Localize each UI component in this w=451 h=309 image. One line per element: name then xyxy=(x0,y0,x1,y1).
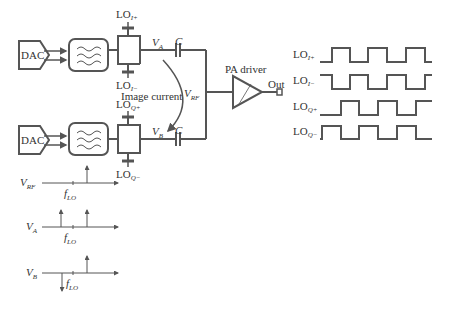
lo-waveforms xyxy=(320,48,432,139)
spectra-axes xyxy=(42,166,118,291)
pa-driver-label: PA driver xyxy=(225,64,266,75)
capacitor-bottom-label: C xyxy=(175,125,182,136)
va-label: VA xyxy=(152,37,163,51)
pa-driver-shape xyxy=(233,76,262,108)
lo-q-minus-label: LOQ− xyxy=(116,169,140,182)
waveform-label-lo-q-plus: LOQ+ xyxy=(293,101,317,114)
spectrum-tick-flo-va: fLO xyxy=(64,232,76,246)
waveform-label-lo-i-plus: LOI+ xyxy=(293,49,315,62)
filter-bottom-shape xyxy=(69,123,108,155)
out-label: Out xyxy=(268,79,285,90)
vrf-label: VRF xyxy=(184,88,199,102)
spectrum-label-vb: VB xyxy=(26,267,37,281)
dac-top-label: DAC xyxy=(21,50,44,61)
dac-bottom-label: DAC xyxy=(21,135,44,146)
iq-upconverter-diagram: DAC DAC LOI+ LOI− LOQ+ LOQ− VA VB C C Im… xyxy=(0,0,451,309)
image-current-label: Image current xyxy=(121,91,182,102)
capacitor-top-label: C xyxy=(175,36,182,47)
spectrum-tick-flo-vb: fLO xyxy=(66,278,78,292)
circuit-drawing xyxy=(0,0,451,309)
waveform-label-lo-q-minus: LOQ− xyxy=(293,126,317,139)
waveform-label-lo-i-minus: LOI− xyxy=(293,75,315,88)
vb-label: VB xyxy=(152,126,163,140)
spectrum-label-vrf: VRF xyxy=(20,177,35,191)
spectrum-label-va: VA xyxy=(26,221,37,235)
filter-top-shape xyxy=(69,39,108,71)
spectrum-tick-flo-vrf: fLO xyxy=(64,188,76,202)
lo-i-plus-label: LOI+ xyxy=(116,9,138,22)
